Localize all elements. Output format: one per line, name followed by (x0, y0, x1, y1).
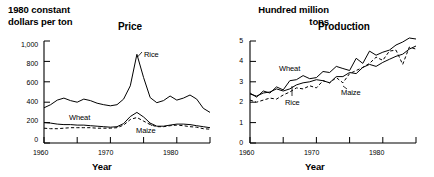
price-curve-rice (44, 54, 210, 112)
price-y-ticks (44, 41, 50, 143)
chart-panel-production: Hundred million tons Production 5 4 3 2 … (217, 0, 434, 177)
production-curve-maize (250, 47, 416, 102)
production-plot-svg (217, 0, 434, 177)
production-x-ticks (250, 137, 416, 143)
production-y-ticks (250, 41, 256, 143)
figure-root: 1980 constant dollars per ton Price 1,00… (0, 0, 434, 177)
price-leader-rice (138, 52, 143, 57)
chart-panel-price: 1980 constant dollars per ton Price 1,00… (0, 0, 217, 177)
production-curve-wheat (250, 38, 416, 97)
price-curve-wheat (44, 112, 210, 127)
price-plot-svg (0, 0, 217, 177)
price-curve-maize (44, 118, 210, 130)
price-x-ticks (44, 137, 210, 143)
production-leader-maize (343, 86, 347, 89)
